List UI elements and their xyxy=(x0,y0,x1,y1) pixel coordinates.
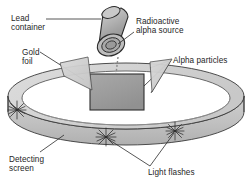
label-alpha-particles: Alpha particles xyxy=(173,56,227,65)
label-radioactive-alpha-source: Radioactive alpha source xyxy=(136,17,183,36)
label-light-flashes: Light flashes xyxy=(148,168,195,177)
alpha-source-aperture xyxy=(94,30,127,59)
gold-foil-rect xyxy=(90,74,144,110)
light-flash-right xyxy=(166,122,184,140)
gold-foil-sheet xyxy=(90,74,144,110)
label-gold-foil: Gold foil xyxy=(22,48,40,67)
rutherford-experiment-diagram: Lead container Radioactive alpha source … xyxy=(0,0,251,188)
light-flash-left xyxy=(8,101,26,119)
label-lead-container: Lead container xyxy=(11,14,45,33)
lead-container-cylinder xyxy=(94,4,128,59)
label-detecting-screen: Detecting screen xyxy=(9,155,44,174)
